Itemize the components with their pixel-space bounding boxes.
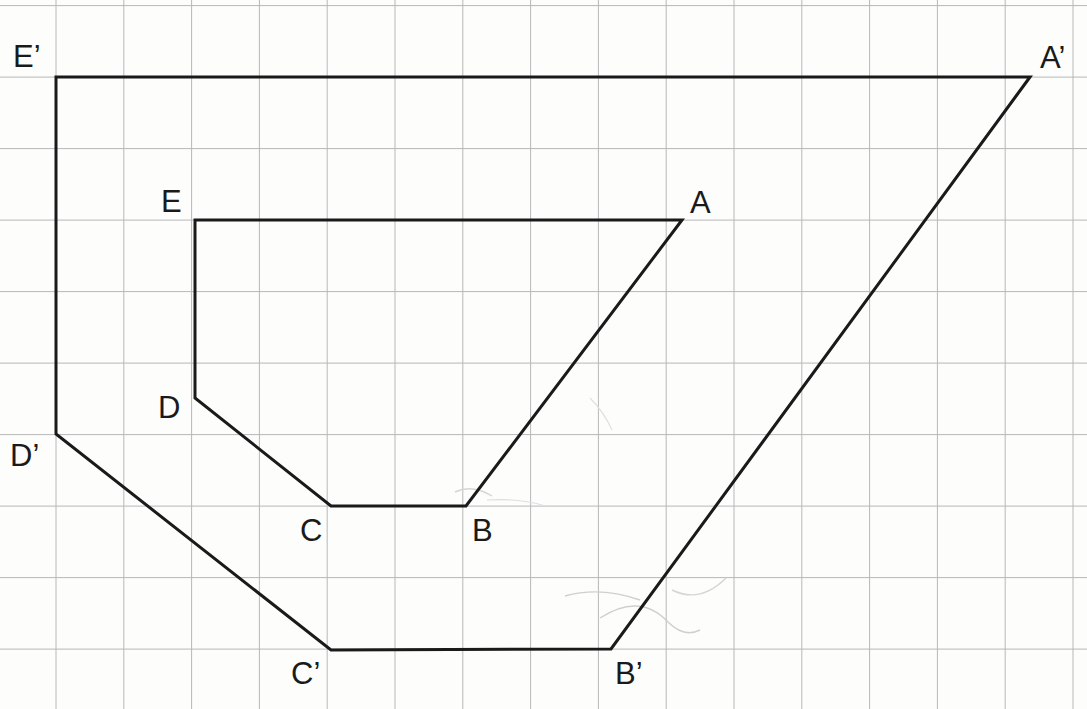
vertex-label-a: A [690, 185, 711, 220]
vertex-label-d-prime: D’ [10, 438, 39, 473]
vertex-label-c: C [300, 513, 322, 548]
vertex-label-a-prime: A’ [1040, 40, 1065, 75]
vertex-label-b: B [472, 513, 493, 548]
vertex-label-e: E [161, 184, 182, 219]
vertex-label-e-prime: E’ [13, 39, 41, 74]
diagram-canvas: ABCDEA’B’C’D’E’ [0, 0, 1087, 709]
vertex-label-d: D [158, 390, 180, 425]
vertex-label-b-prime: B’ [615, 656, 643, 691]
graph-paper-figure: ABCDEA’B’C’D’E’ [0, 0, 1087, 709]
vertex-label-c-prime: C’ [291, 656, 320, 691]
paper-background [0, 0, 1087, 709]
